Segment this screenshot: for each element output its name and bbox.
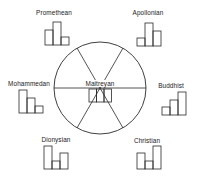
label-buddhist: Buddhist	[158, 82, 184, 89]
label-dionysian: Dionysian	[42, 136, 71, 143]
label-christian: Christian	[134, 137, 160, 144]
chart-apollonian	[137, 23, 161, 46]
label-mohammedan: Mohammedan	[8, 80, 50, 87]
chart-maitreyan	[89, 89, 112, 102]
diagram-canvas	[0, 0, 197, 180]
label-apollonian: Apollonian	[133, 9, 164, 16]
label-maitreyan: Maitreyan	[85, 80, 116, 87]
chart-buddhist	[162, 92, 186, 115]
chart-promethean	[45, 22, 69, 45]
chart-mohammedan	[19, 90, 43, 113]
chart-christian	[137, 146, 161, 169]
chart-dionysian	[44, 146, 68, 169]
circle-spokes	[54, 48, 146, 128]
label-promethean: Promethean	[36, 9, 72, 16]
